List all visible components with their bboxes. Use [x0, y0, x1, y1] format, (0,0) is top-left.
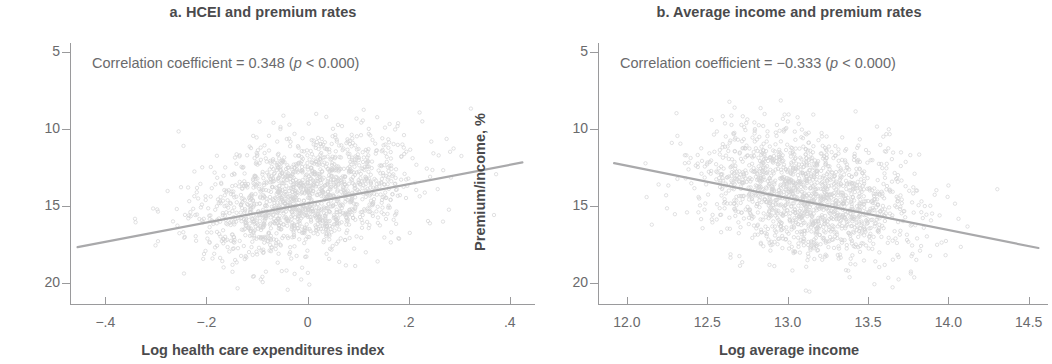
panel-a-y-tick: [62, 129, 70, 130]
panel-a-x-tick-label: −.4: [75, 315, 135, 329]
panel-b-title: b. Average income and premium rates: [526, 4, 1052, 20]
panel-a-y-tick: [62, 283, 70, 284]
panel-b-y-tick-label: 15: [556, 198, 588, 212]
panel-b-x-tick-label: 13.0: [758, 315, 818, 329]
figure-scatter-pair: a. HCEI and premium rates Premium/income…: [0, 0, 1052, 364]
panel-b-y-tick: [590, 283, 598, 284]
panel-a-y-tick-label: 15: [28, 198, 60, 212]
panel-a-x-tick: [105, 297, 106, 305]
panel-b-x-tick: [627, 297, 628, 305]
panel-b-x-tick: [707, 297, 708, 305]
panel-b-x-tick-label: 12.0: [597, 315, 657, 329]
panel-a-x-tick-label: 0: [278, 315, 338, 329]
panel-a-y-axis-line: [70, 43, 71, 305]
panel-a-x-tick: [206, 297, 207, 305]
panel-b-x-axis-label: Log average income: [526, 342, 1052, 358]
panel-a-y-tick: [62, 206, 70, 207]
panel-b-y-tick: [590, 206, 598, 207]
panel-b-plot-area: Correlation coefficient = −0.333 (p < 0.…: [598, 43, 1048, 305]
panel-a-x-tick-label: −.2: [176, 315, 236, 329]
panel-b-y-tick-label: 20: [556, 275, 588, 289]
panel-b-y-tick: [590, 129, 598, 130]
panel-b-x-tick: [788, 297, 789, 305]
panel-b-y-tick-label: 5: [556, 44, 588, 58]
panel-a-y-tick-label: 20: [28, 275, 60, 289]
panel-a-title: a. HCEI and premium rates: [0, 4, 526, 20]
panel-a-x-tick: [308, 297, 309, 305]
panel-a-regression-line: [70, 43, 535, 305]
panel-b-x-tick-label: 12.5: [677, 315, 737, 329]
panel-b-x-tick-label: 14.0: [918, 315, 978, 329]
panel-b-x-tick: [1029, 297, 1030, 305]
panel-b-x-tick-label: 13.5: [838, 315, 898, 329]
panel-b-x-tick: [868, 297, 869, 305]
panel-a-y-tick-label: 5: [28, 44, 60, 58]
panel-b: b. Average income and premium rates Prem…: [526, 0, 1052, 364]
panel-a-x-tick-label: .2: [379, 315, 439, 329]
panel-b-x-tick-label: 14.5: [999, 315, 1052, 329]
panel-b-x-axis-line: [598, 304, 1048, 305]
panel-b-y-axis-line: [598, 43, 599, 305]
panel-a: a. HCEI and premium rates Premium/income…: [0, 0, 526, 364]
panel-a-x-tick: [409, 297, 410, 305]
panel-b-y-tick: [590, 52, 598, 53]
panel-a-plot-area: Correlation coefficient = 0.348 (p < 0.0…: [70, 43, 535, 305]
panel-b-y-tick-label: 10: [556, 121, 588, 135]
panel-b-y-axis-label: Premium/income, %: [472, 113, 488, 251]
panel-a-x-axis-line: [70, 304, 535, 305]
panel-b-x-tick: [948, 297, 949, 305]
panel-a-y-tick-label: 10: [28, 121, 60, 135]
panel-a-x-axis-label: Log health care expenditures index: [0, 342, 526, 358]
panel-a-y-tick: [62, 52, 70, 53]
panel-a-x-tick: [510, 297, 511, 305]
panel-b-regression-line: [598, 43, 1048, 305]
